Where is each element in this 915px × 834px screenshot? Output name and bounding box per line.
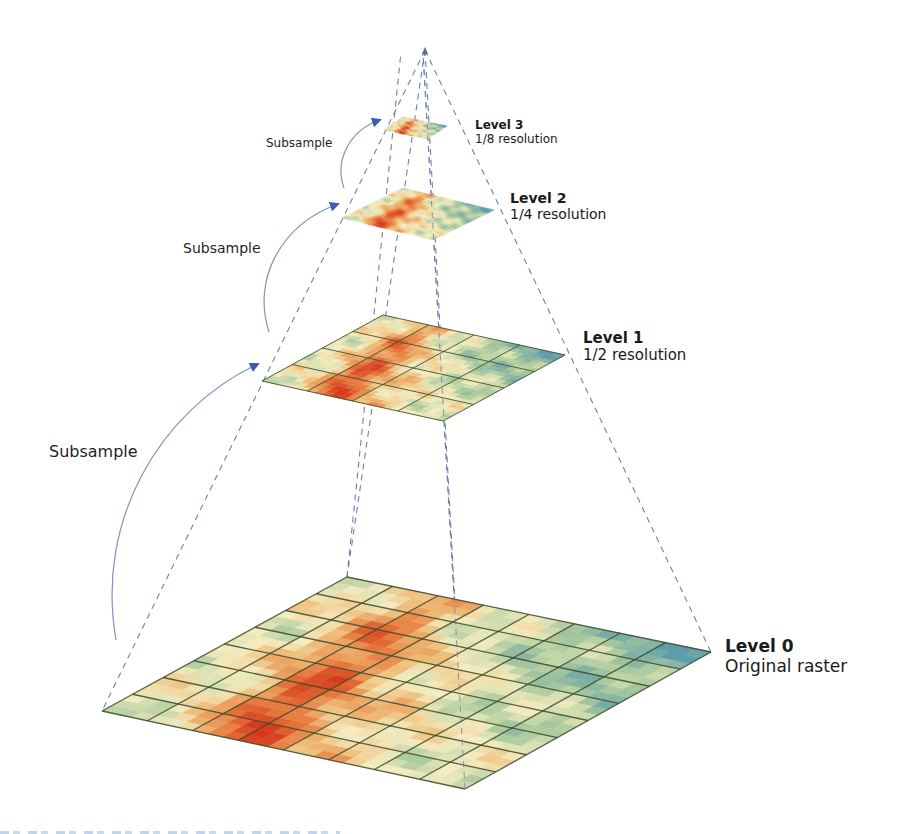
level-3-plane — [384, 117, 447, 139]
level-1-subtitle: 1/2 resolution — [583, 347, 686, 364]
subsample-arrow-1-to-2 — [264, 204, 338, 332]
level-2-label: Level 2 1/4 resolution — [510, 190, 606, 222]
subsample-label-2-to-3: Subsample — [266, 136, 332, 150]
level-3-title: Level 3 — [475, 119, 558, 133]
level-2-title: Level 2 — [510, 190, 606, 206]
subsample-label-0-to-1: Subsample — [49, 442, 138, 461]
level-3-subtitle: 1/8 resolution — [475, 133, 558, 147]
level-0-label: Level 0 Original raster — [725, 637, 847, 676]
subsample-label-1-to-2: Subsample — [183, 240, 261, 256]
level-2-plane — [342, 188, 494, 240]
level-0-plane — [102, 577, 711, 789]
pyramid-canvas — [0, 0, 915, 834]
raster-pyramid-diagram: Level 3 1/8 resolution Level 2 1/4 resol… — [0, 0, 915, 834]
level-0-title: Level 0 — [725, 637, 847, 657]
level-1-title: Level 1 — [583, 330, 686, 347]
level-1-plane — [262, 315, 565, 421]
subsample-arrow-0-to-1 — [112, 364, 258, 640]
cropped-figure-caption — [0, 826, 360, 834]
pyramid-levels — [102, 117, 711, 789]
level-3-label: Level 3 1/8 resolution — [475, 119, 558, 147]
level-2-subtitle: 1/4 resolution — [510, 206, 606, 222]
level-0-subtitle: Original raster — [725, 657, 847, 677]
level-1-label: Level 1 1/2 resolution — [583, 330, 686, 365]
